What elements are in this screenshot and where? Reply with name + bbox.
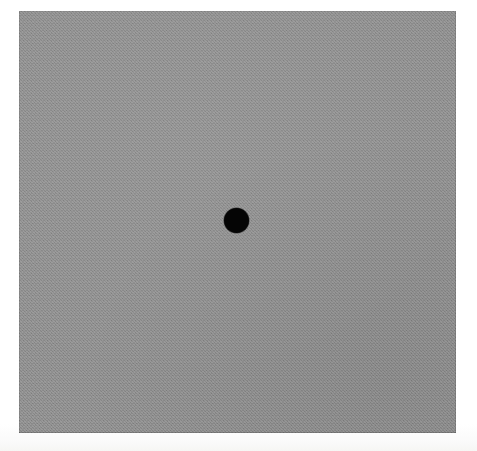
stimulus-canvas bbox=[0, 0, 477, 451]
fixation-dot bbox=[224, 208, 249, 233]
